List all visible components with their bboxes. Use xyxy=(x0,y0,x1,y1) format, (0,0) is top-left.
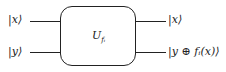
input-x-wire xyxy=(30,21,60,22)
output-x-wire xyxy=(136,21,166,22)
output-y-wire xyxy=(136,52,166,53)
input-x-label: |x⟩ xyxy=(8,14,22,26)
input-y-wire xyxy=(30,52,60,53)
output-x-label: |x⟩ xyxy=(168,14,182,26)
output-y-label: |y ⊕ fᵢ(x)⟩ xyxy=(168,46,220,58)
oracle-gate-label: Ufᵢ xyxy=(92,29,105,44)
input-y-label: |y⟩ xyxy=(8,46,22,58)
